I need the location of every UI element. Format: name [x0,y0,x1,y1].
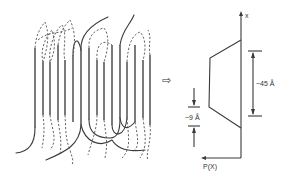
loop [127,32,145,62]
crystal-thickness-label: ~45 Å [256,79,275,87]
x-axis-label: x [245,12,249,19]
loop [97,42,112,60]
chain-tail [16,128,35,153]
loop [148,30,150,55]
loop [42,30,54,62]
loop [122,118,129,158]
loop [65,115,73,165]
loop [140,118,145,158]
loop [58,120,61,155]
interface-thickness-label: ~9 Å [185,113,200,121]
chain-loop [81,17,108,50]
loop [132,122,138,152]
p-axis-label: P(X) [203,163,217,171]
loop [147,125,150,160]
profile-curve [209,40,241,128]
transition-arrow-icon: ⇨ [162,74,171,86]
figure: ⇨ x P(X) ~45 Å ~9 Å [0,0,291,181]
p-axis-arrow-icon [201,156,206,160]
loop [58,20,74,55]
arrow-up-icon [251,52,255,58]
density-profile: x P(X) ~45 Å ~9 Å [185,11,275,171]
x-axis-arrow-icon [239,11,243,16]
loop [50,115,54,150]
dashed-chain-loops [35,20,150,165]
crystal-stems [35,45,150,128]
arrow-up-icon [192,127,196,133]
loop [42,115,44,148]
loop [35,22,48,62]
chain-tail [46,125,81,160]
arrow-down-icon [251,109,255,115]
loop [104,120,107,158]
chain-folding-model [16,15,150,165]
loop [89,28,108,62]
arrow-down-icon [192,100,196,106]
